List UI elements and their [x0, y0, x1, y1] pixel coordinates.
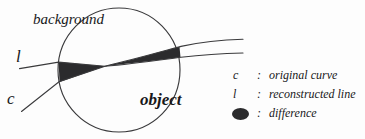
- legend-label-original-curve: original curve: [265, 68, 337, 83]
- legend-label-reconstructed-line: reconstructed line: [265, 87, 356, 102]
- line-l-label: l: [16, 48, 21, 65]
- background-label: background: [33, 12, 104, 27]
- legend: c : original curve l : reconstructed lin…: [231, 66, 361, 123]
- legend-item-difference: : difference: [231, 104, 361, 123]
- legend-colon: :: [257, 106, 265, 121]
- legend-colon: :: [257, 87, 265, 102]
- difference-swatch: [231, 108, 257, 120]
- legend-item-original-curve: c : original curve: [231, 66, 361, 85]
- filled-ellipse-icon: [232, 108, 249, 120]
- original-curve-c: [22, 39, 244, 111]
- legend-key-l: l: [231, 87, 257, 102]
- legend-item-reconstructed-line: l : reconstructed line: [231, 85, 361, 104]
- figure-canvas: background l c object c : original curve…: [0, 0, 365, 139]
- legend-label-difference: difference: [265, 106, 317, 121]
- curve-c-label: c: [7, 90, 15, 107]
- object-label: object: [140, 91, 182, 108]
- legend-key-c: c: [231, 68, 257, 83]
- legend-colon: :: [257, 68, 265, 83]
